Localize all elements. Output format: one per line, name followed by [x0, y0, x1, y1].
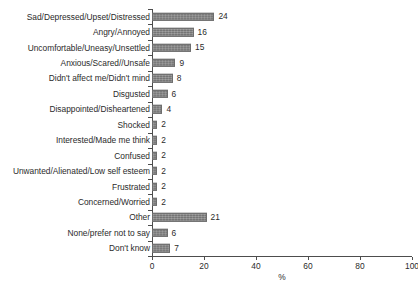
- bar-value-label: 2: [161, 151, 166, 160]
- x-axis-line: [152, 256, 412, 257]
- bar-row: Other21: [0, 210, 418, 225]
- x-axis-tick-label: 0: [150, 261, 155, 271]
- y-axis-tick: [148, 102, 152, 103]
- y-axis-tick: [148, 24, 152, 25]
- bar-row: Shocked2: [0, 117, 418, 132]
- bar-with-value: 4: [152, 105, 171, 113]
- bar-row: Interested/Made me think2: [0, 133, 418, 148]
- bar-with-value: 8: [152, 74, 181, 82]
- bar-rows: Sad/Depressed/Upset/Distressed24Angry/An…: [0, 9, 418, 256]
- bar: [152, 244, 170, 252]
- bar: [152, 43, 191, 51]
- bar-with-value: 15: [152, 43, 204, 51]
- category-label: Shocked: [118, 120, 150, 129]
- bar: [152, 167, 157, 175]
- category-label: Disgusted: [113, 89, 150, 98]
- x-axis-title: %: [278, 272, 285, 282]
- y-axis-tick: [148, 71, 152, 72]
- y-axis-tick: [148, 194, 152, 195]
- y-axis-tick: [148, 225, 152, 226]
- bar-with-value: 2: [152, 167, 166, 175]
- bar-value-label: 9: [179, 59, 184, 68]
- category-label: Sad/Depressed/Upset/Distressed: [27, 12, 150, 21]
- bar-row: Angry/Annoyed16: [0, 24, 418, 39]
- bar-row: Didn't affect me/Didn't mind8: [0, 71, 418, 86]
- bar: [152, 59, 175, 67]
- bar-with-value: 9: [152, 59, 184, 67]
- category-label: Didn't affect me/Didn't mind: [49, 74, 150, 83]
- bar-row: Frustrated2: [0, 179, 418, 194]
- bar-value-label: 2: [161, 182, 166, 191]
- bar-with-value: 16: [152, 28, 207, 36]
- bar-with-value: 24: [152, 13, 228, 21]
- bar-row: Sad/Depressed/Upset/Distressed24: [0, 9, 418, 24]
- category-label: Concerned/Worried: [78, 197, 150, 206]
- y-axis-tick: [148, 241, 152, 242]
- bar-row: Confused2: [0, 148, 418, 163]
- category-label: Unwanted/Alienated/Low self esteem: [13, 167, 150, 176]
- bar-chart: Sad/Depressed/Upset/Distressed24Angry/An…: [0, 0, 418, 287]
- bar-value-label: 16: [198, 28, 207, 37]
- category-label: None/prefer not to say: [68, 228, 150, 237]
- x-axis-tick: [412, 257, 413, 260]
- bar: [152, 90, 168, 98]
- x-axis-tick-label: 80: [355, 261, 364, 271]
- bar-with-value: 2: [152, 121, 166, 129]
- y-axis-tick: [148, 117, 152, 118]
- category-label: Disappointed/Disheartened: [49, 105, 150, 114]
- category-label: Uncomfortable/Uneasy/Unsettled: [28, 43, 150, 52]
- bar-row: Disgusted6: [0, 86, 418, 101]
- category-label: Frustrated: [112, 182, 150, 191]
- bar-with-value: 2: [152, 198, 166, 206]
- x-axis-tick-label: 40: [251, 261, 260, 271]
- bar: [152, 105, 162, 113]
- bar-with-value: 2: [152, 182, 166, 190]
- bar-row: Anxious/Scared//Unsafe9: [0, 55, 418, 70]
- bar-value-label: 4: [166, 105, 171, 114]
- x-axis-tick: [360, 257, 361, 260]
- x-axis-tick: [308, 257, 309, 260]
- bar-value-label: 2: [161, 120, 166, 129]
- bar-with-value: 7: [152, 244, 179, 252]
- bar-value-label: 7: [174, 244, 179, 253]
- y-axis-tick: [148, 148, 152, 149]
- bar-value-label: 21: [211, 213, 220, 222]
- bar: [152, 28, 194, 36]
- x-axis-tick-label: 60: [303, 261, 312, 271]
- bar-with-value: 2: [152, 136, 166, 144]
- x-axis-tick-label: 20: [199, 261, 208, 271]
- bar: [152, 13, 214, 21]
- category-label: Confused: [114, 151, 150, 160]
- category-label: Other: [129, 213, 150, 222]
- bar-with-value: 2: [152, 151, 166, 159]
- y-axis-tick: [148, 179, 152, 180]
- bar: [152, 136, 157, 144]
- bar-value-label: 2: [161, 197, 166, 206]
- bar-row: None/prefer not to say6: [0, 225, 418, 240]
- category-label: Angry/Annoyed: [93, 28, 150, 37]
- y-axis-tick: [148, 86, 152, 87]
- bar-value-label: 6: [172, 228, 177, 237]
- bar-value-label: 2: [161, 136, 166, 145]
- bar-row: Don't know7: [0, 241, 418, 256]
- bar-with-value: 6: [152, 229, 176, 237]
- bar: [152, 229, 168, 237]
- y-axis-tick: [148, 9, 152, 10]
- bar: [152, 213, 207, 221]
- bar-row: Disappointed/Disheartened4: [0, 102, 418, 117]
- bar-value-label: 8: [177, 74, 182, 83]
- bar: [152, 198, 157, 206]
- bar: [152, 151, 157, 159]
- x-axis-tick: [256, 257, 257, 260]
- x-axis-tick: [152, 257, 153, 260]
- y-axis-tick: [148, 256, 152, 257]
- bar-value-label: 2: [161, 167, 166, 176]
- bar-value-label: 24: [218, 12, 227, 21]
- y-axis-tick: [148, 40, 152, 41]
- y-axis-tick: [148, 55, 152, 56]
- bar-value-label: 15: [195, 43, 204, 52]
- bar-row: Unwanted/Alienated/Low self esteem2: [0, 163, 418, 178]
- x-axis-tick: [204, 257, 205, 260]
- bar-value-label: 6: [172, 89, 177, 98]
- bar: [152, 121, 157, 129]
